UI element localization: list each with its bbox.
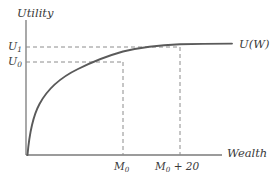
y-tick-u1-subscript: 1: [17, 45, 22, 54]
x-tick-m0-plus-20-subscript: 0: [166, 165, 171, 174]
y-axis-title: Utility: [17, 8, 53, 20]
y-tick-u1-base: U: [8, 40, 17, 53]
y-tick-u0-subscript: 0: [17, 60, 22, 69]
y-tick-label-u0: U0: [8, 56, 22, 67]
utility-of-wealth-figure: Utility Wealth U(W) U1 U0 M0 M0 + 20: [0, 0, 274, 179]
y-tick-u0-base: U: [8, 55, 17, 68]
x-tick-m0-plus-20-suffix: + 20: [170, 160, 199, 172]
x-tick-m0-subscript: 0: [125, 165, 130, 174]
y-tick-label-u1: U1: [8, 41, 22, 52]
curve-label-u-of-w: U(W): [239, 39, 270, 51]
x-tick-label-m0: M0: [114, 161, 129, 172]
x-tick-label-m0-plus-20: M0 + 20: [155, 161, 199, 172]
utility-curve-path: [27, 53, 123, 155]
x-axis-title: Wealth: [227, 148, 267, 160]
x-tick-m0-plus-20-base: M: [155, 160, 166, 172]
utility-curve: [28, 44, 233, 155]
x-tick-m0-base: M: [114, 160, 125, 172]
